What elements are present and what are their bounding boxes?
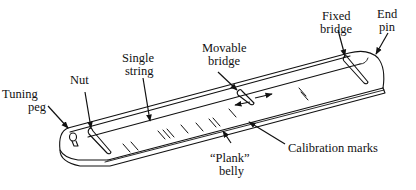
label-calibration-marks: Calibration marks <box>288 141 378 155</box>
svg-text:Movable: Movable <box>202 41 247 55</box>
svg-text:“Plank”: “Plank” <box>210 151 250 165</box>
svg-text:peg: peg <box>28 100 47 114</box>
svg-text:pin: pin <box>379 20 396 34</box>
label-fixed-bridge: Fixed bridge <box>320 9 352 36</box>
svg-text:Nut: Nut <box>70 73 89 87</box>
svg-text:string: string <box>125 64 154 78</box>
label-nut: Nut <box>70 73 89 87</box>
label-single-string: Single string <box>122 51 154 78</box>
svg-text:Tuning: Tuning <box>2 87 38 101</box>
svg-text:Fixed: Fixed <box>322 9 351 23</box>
label-tuning-peg: Tuning peg <box>2 87 47 114</box>
tuning-peg <box>70 133 79 146</box>
svg-text:belly: belly <box>219 164 245 178</box>
svg-text:Calibration marks: Calibration marks <box>288 141 378 155</box>
fixed-bridge <box>343 56 368 84</box>
svg-text:bridge: bridge <box>320 22 352 36</box>
label-end-pin: End pin <box>377 7 398 34</box>
movable-bridge <box>235 90 272 105</box>
svg-text:bridge: bridge <box>208 54 240 68</box>
label-movable-bridge: Movable bridge <box>202 41 247 68</box>
monochord-diagram: Tuning peg Nut Single string Movable bri… <box>0 0 416 190</box>
svg-text:End: End <box>377 7 398 21</box>
svg-text:Single: Single <box>122 51 154 65</box>
label-plank-belly: “Plank” belly <box>210 151 250 178</box>
